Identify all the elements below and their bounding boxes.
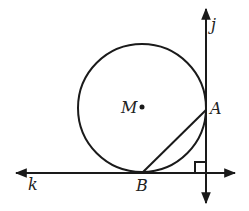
center-point-m <box>140 105 145 110</box>
label-m: M <box>120 98 138 117</box>
label-k: k <box>28 175 38 194</box>
label-b: B <box>135 176 148 195</box>
right-angle-marker <box>195 162 206 173</box>
geometry-diagram: M A B j k <box>0 0 249 211</box>
label-j: j <box>208 15 216 34</box>
label-a: A <box>208 99 222 118</box>
